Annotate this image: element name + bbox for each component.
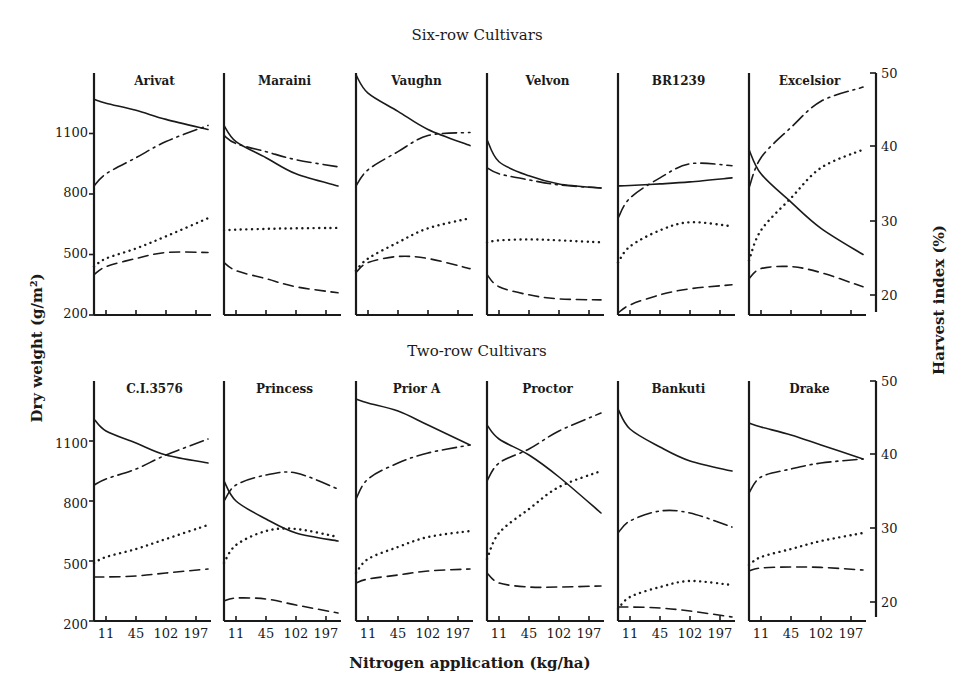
x-tick-label: 45 <box>521 626 538 641</box>
series-solid <box>487 425 601 513</box>
series-dashed <box>94 569 208 577</box>
x-tick-label: 11 <box>360 626 377 641</box>
series-dash-dot <box>618 510 732 533</box>
panel-excelsior: Excelsior <box>749 73 866 315</box>
x-tick-label: 11 <box>98 626 115 641</box>
panel-proctor: 1145102197Proctor <box>487 381 604 641</box>
x-tick-label: 197 <box>446 626 471 641</box>
series-dash-dot <box>487 168 601 188</box>
series-dash-dot <box>356 445 470 499</box>
x-tick-label: 45 <box>128 626 145 641</box>
series-dash-dot <box>224 472 338 501</box>
panel-title: Bankuti <box>652 382 706 396</box>
series-dash-dot <box>94 125 208 186</box>
series-dashed <box>356 569 470 583</box>
series-dashed <box>487 275 601 300</box>
panel-c-i-3576: 1145102197C.I.3576 <box>89 381 211 641</box>
svg-text:800: 800 <box>63 496 88 511</box>
x-tick-label: 102 <box>154 626 179 641</box>
svg-text:30: 30 <box>881 521 898 536</box>
series-solid <box>618 178 732 186</box>
svg-text:1100: 1100 <box>55 125 88 140</box>
panel-title: Excelsior <box>779 74 841 88</box>
series-dotted <box>749 533 863 565</box>
series-dash-dot <box>356 132 470 185</box>
right-axis-top: 50 40 30 20 <box>870 66 898 312</box>
svg-text:500: 500 <box>63 557 88 572</box>
panel-title: Velvon <box>524 74 569 88</box>
series-dotted <box>224 528 338 563</box>
series-solid <box>94 99 208 129</box>
svg-text:50: 50 <box>881 66 898 81</box>
series-dashed <box>94 252 208 275</box>
series-dotted <box>224 228 338 230</box>
left-axis-label: Dry weight (g/m²) <box>28 273 46 422</box>
series-dashed <box>356 256 470 272</box>
panel-velvon: Velvon <box>487 73 604 315</box>
series-solid <box>224 481 338 541</box>
panel-title: Princess <box>256 382 313 396</box>
svg-text:40: 40 <box>881 447 898 462</box>
x-tick-label: 11 <box>491 626 508 641</box>
x-tick-label: 197 <box>184 626 209 641</box>
chart-figure: Six-row Cultivars Two-row Cultivars Dry … <box>0 0 957 696</box>
section-title-six-row: Six-row Cultivars <box>411 26 542 44</box>
svg-text:200: 200 <box>63 617 88 632</box>
x-tick-label: 197 <box>839 626 864 641</box>
series-dashed <box>224 598 338 613</box>
right-axis-label: Harvest index (%) <box>930 225 948 375</box>
series-dash-dot <box>749 87 863 188</box>
series-dashed <box>618 607 732 617</box>
panel-title: BR1239 <box>652 74 706 88</box>
series-dash-dot <box>94 439 208 485</box>
series-dash-dot <box>749 459 863 493</box>
x-tick-label: 11 <box>228 626 245 641</box>
series-dotted <box>94 218 208 266</box>
panel-br1239: BR1239 <box>618 73 735 315</box>
section-title-two-row: Two-row Cultivars <box>407 342 546 360</box>
panel-vaughn: Vaughn <box>356 73 473 315</box>
series-dotted <box>618 581 732 609</box>
series-dotted <box>618 222 732 262</box>
series-solid <box>487 140 601 188</box>
series-solid <box>94 419 208 463</box>
series-dotted <box>94 525 208 563</box>
x-tick-label: 197 <box>708 626 733 641</box>
x-tick-label: 45 <box>652 626 669 641</box>
series-dotted <box>356 218 470 270</box>
panel-princess: 1145102197Princess <box>224 381 341 641</box>
panel-maraini: Maraini <box>224 73 341 315</box>
x-tick-label: 102 <box>416 626 441 641</box>
series-solid <box>749 423 863 459</box>
x-tick-label: 102 <box>284 626 309 641</box>
series-solid <box>618 409 732 471</box>
series-dashed <box>749 266 863 286</box>
series-dash-dot <box>618 163 732 218</box>
svg-text:500: 500 <box>63 246 88 261</box>
series-solid <box>356 399 470 445</box>
x-tick-label: 102 <box>547 626 572 641</box>
x-axis-label: Nitrogen application (kg/ha) <box>349 654 590 672</box>
svg-text:20: 20 <box>881 288 898 303</box>
x-tick-label: 11 <box>753 626 770 641</box>
series-dash-dot <box>224 136 338 167</box>
x-tick-label: 45 <box>258 626 275 641</box>
panel-arivat: Arivat <box>89 73 211 315</box>
panel-title: Proctor <box>522 382 573 396</box>
panel-drake: 1145102197Drake <box>749 381 866 641</box>
panel-title: Arivat <box>133 74 175 88</box>
series-dashed <box>749 567 863 571</box>
svg-text:200: 200 <box>63 306 88 321</box>
series-dotted <box>356 531 470 573</box>
svg-text:20: 20 <box>881 595 898 610</box>
x-tick-label: 45 <box>783 626 800 641</box>
panel-title: Maraini <box>258 74 311 88</box>
svg-text:30: 30 <box>881 214 898 229</box>
series-dotted <box>487 471 601 559</box>
series-solid <box>749 150 863 255</box>
svg-text:40: 40 <box>881 139 898 154</box>
left-axis-ticks-top: 1100 800 500 200 <box>55 125 88 321</box>
panel-title: Drake <box>789 382 830 396</box>
series-dashed <box>618 285 732 313</box>
x-tick-label: 197 <box>314 626 339 641</box>
